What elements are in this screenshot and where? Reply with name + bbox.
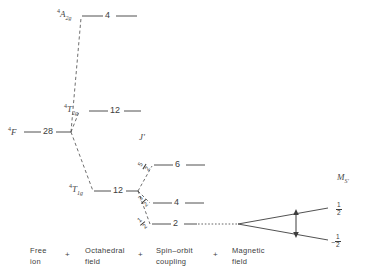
t2g-subscript: 2g	[72, 110, 78, 116]
fraction-numerator: 1	[336, 202, 342, 209]
label-free-ion-term: 4F	[8, 126, 17, 137]
fraction-numerator: 1	[335, 234, 341, 241]
footer-plus-3: +	[213, 250, 218, 259]
footer-line-1: Magnetic	[232, 246, 265, 257]
label-term-t2g: 4T2g	[64, 103, 78, 116]
free-ion-letter: F	[11, 127, 17, 137]
degeneracy-j52: 6	[175, 160, 180, 169]
degeneracy-a2g: 4	[105, 11, 110, 20]
energy-level-diagram-figure: 4F 28 4A2g 4 4T2g 12 4T1g 12 J' 5 2 6 3 …	[0, 0, 366, 270]
footer-plus-1: +	[65, 250, 70, 259]
footer-plus-2: +	[138, 250, 143, 259]
ms-letter: M	[337, 172, 345, 182]
degeneracy-t1g: 12	[113, 186, 123, 195]
label-term-a2g: 4A2g	[57, 8, 72, 21]
footer-line-1: Spin–orbit	[156, 246, 193, 257]
footer-column-magnetic-field: Magnetic field	[232, 246, 265, 268]
degeneracy-j12: 2	[173, 219, 178, 228]
ms-subscript: S'	[345, 178, 349, 184]
arrow-head-up	[293, 209, 299, 215]
label-ms-lower: − 1 2	[331, 233, 341, 251]
degeneracy-t2g: 12	[110, 106, 120, 115]
fraction-ms-lower: 1 2	[335, 234, 341, 249]
a2g-subscript: 2g	[66, 15, 72, 21]
t1g-subscript: 1g	[77, 190, 83, 196]
label-term-t1g: 4T1g	[69, 183, 83, 196]
header-ms-quantum-number: MS'	[337, 173, 349, 184]
zeeman-line-upper	[238, 208, 328, 224]
diagram-canvas	[0, 0, 366, 270]
footer-line-2: field	[232, 257, 265, 268]
footer-line-1: Free	[30, 246, 47, 257]
fraction-ms-upper: 1 2	[336, 202, 342, 217]
label-ms-upper: 1 2	[336, 201, 342, 219]
footer-line-2: coupling	[156, 257, 193, 268]
degeneracy-free-ion: 28	[43, 127, 53, 136]
footer-line-2: field	[85, 257, 125, 268]
fraction-denominator: 2	[336, 209, 342, 217]
footer-column-free-ion: Free ion	[30, 246, 47, 268]
zeeman-line-lower	[238, 224, 328, 240]
footer-line-2: ion	[30, 257, 47, 268]
footer-line-1: Octahedral	[85, 246, 125, 257]
header-j-quantum-number: J'	[139, 133, 145, 142]
footer-column-octahedral-field: Octahedral field	[85, 246, 125, 268]
degeneracy-j32: 4	[174, 198, 179, 207]
footer-column-spin-orbit-coupling: Spin–orbit coupling	[156, 246, 193, 268]
fraction-denominator: 2	[335, 241, 341, 249]
